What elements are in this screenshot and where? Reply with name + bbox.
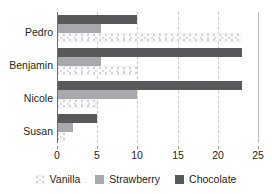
x-tick-label-25: 25 (252, 149, 264, 161)
bar-pedro-strawberry (57, 24, 101, 33)
x-tick-label-15: 15 (172, 149, 184, 161)
bar-nicole-vanilla (57, 99, 97, 108)
legend-label-chocolate: Chocolate (189, 173, 236, 185)
gridline-15 (178, 12, 179, 143)
y-axis-label-0: Pedro (1, 27, 53, 38)
plot-right-border (258, 12, 259, 143)
y-axis-line (57, 12, 58, 143)
y-axis-label-2: Nicole (1, 93, 53, 104)
bar-pedro-chocolate (57, 15, 137, 24)
legend-swatch-vanilla-icon (36, 175, 45, 184)
bar-chart: Pedro Benjamin Nicole Susan (0, 0, 272, 194)
y-axis-label-3: Susan (1, 126, 53, 137)
x-tick-label-10: 10 (131, 149, 143, 161)
legend-swatch-strawberry-icon (95, 175, 104, 184)
legend-item-strawberry[interactable]: Strawberry (95, 173, 160, 185)
bar-pedro-vanilla (57, 33, 242, 42)
gridline-10 (137, 12, 138, 143)
y-axis-labels: Pedro Benjamin Nicole Susan (0, 12, 53, 143)
gridline-20 (218, 12, 219, 143)
x-tick-label-0: 0 (54, 149, 60, 161)
bar-benjamin-vanilla (57, 66, 137, 75)
bar-susan-vanilla (57, 132, 65, 141)
bar-benjamin-chocolate (57, 48, 242, 57)
y-axis-label-1: Benjamin (1, 60, 53, 71)
x-tick-label-20: 20 (212, 149, 224, 161)
x-tick-label-5: 5 (94, 149, 100, 161)
bar-susan-chocolate (57, 114, 97, 123)
bar-nicole-chocolate (57, 81, 242, 90)
x-axis: 0 5 10 15 20 25 (0, 146, 272, 160)
legend-label-strawberry: Strawberry (109, 173, 160, 185)
legend-item-vanilla[interactable]: Vanilla (36, 173, 81, 185)
chart-legend: Vanilla Strawberry Chocolate (0, 170, 272, 188)
bar-nicole-strawberry (57, 90, 137, 99)
bar-benjamin-strawberry (57, 57, 101, 66)
plot-area (57, 12, 258, 143)
legend-swatch-chocolate-icon (175, 175, 184, 184)
bar-susan-strawberry (57, 123, 73, 132)
legend-label-vanilla: Vanilla (50, 173, 81, 185)
legend-item-chocolate[interactable]: Chocolate (175, 173, 236, 185)
